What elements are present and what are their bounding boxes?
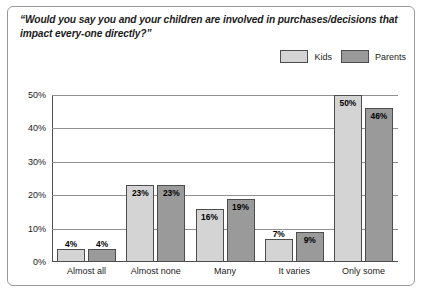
- bar-value-label: 4%: [96, 239, 108, 249]
- chart-title: “Would you say you and your children are…: [20, 13, 398, 41]
- bar-groups: 4%4%23%23%16%19%7%9%50%46%: [52, 95, 398, 262]
- bar-value-label: 23%: [163, 188, 180, 198]
- bar-parents[interactable]: 46%: [365, 108, 393, 262]
- bar-value-label: 19%: [232, 202, 249, 212]
- bar-parents[interactable]: 9%: [296, 232, 324, 262]
- chart-legend: Kids Parents: [280, 50, 406, 63]
- y-axis-tick-label: 50%: [28, 90, 46, 100]
- bar-group: 16%19%: [190, 95, 259, 262]
- legend-label-kids: Kids: [314, 52, 332, 62]
- x-axis-category-label: It varies: [260, 266, 329, 276]
- y-axis-tick-label: 10%: [28, 224, 46, 234]
- bar-group: 7%9%: [260, 95, 329, 262]
- x-axis-category-label: Only some: [329, 266, 398, 276]
- bar-value-label: 9%: [304, 235, 316, 245]
- x-axis-labels: Almost allAlmost noneManyIt variesOnly s…: [52, 266, 398, 276]
- x-axis-category-label: Almost none: [121, 266, 190, 276]
- bar-value-label: 50%: [340, 98, 357, 108]
- legend-swatch-kids: [280, 50, 308, 63]
- bar-kids[interactable]: 4%: [57, 249, 85, 262]
- chart-page: “Would you say you and your children are…: [0, 0, 422, 293]
- y-axis-tick-label: 0%: [33, 257, 46, 267]
- bar-kids[interactable]: 50%: [334, 95, 362, 262]
- bar-parents[interactable]: 19%: [227, 199, 255, 262]
- bar-value-label: 4%: [65, 239, 77, 249]
- bar-group: 23%23%: [121, 95, 190, 262]
- bar-kids[interactable]: 16%: [196, 209, 224, 262]
- bar-value-label: 23%: [132, 188, 149, 198]
- bar-value-label: 46%: [371, 111, 388, 121]
- bar-value-label: 16%: [201, 212, 218, 222]
- bar-parents[interactable]: 23%: [157, 185, 185, 262]
- bar-group: 50%46%: [329, 95, 398, 262]
- bar-parents[interactable]: 4%: [88, 249, 116, 262]
- legend-item-kids: Kids: [280, 50, 332, 63]
- y-axis-tick-label: 20%: [28, 190, 46, 200]
- plot-area: 0%10%20%30%40%50% 4%4%23%23%16%19%7%9%50…: [52, 95, 398, 262]
- legend-swatch-parents: [341, 50, 369, 63]
- bar-value-label: 7%: [273, 229, 285, 239]
- y-axis-tick-label: 30%: [28, 157, 46, 167]
- legend-item-parents: Parents: [341, 50, 406, 63]
- x-axis-category-label: Many: [190, 266, 259, 276]
- bar-kids[interactable]: 7%: [265, 239, 293, 262]
- y-axis-tick-label: 40%: [28, 123, 46, 133]
- x-axis-category-label: Almost all: [52, 266, 121, 276]
- bar-kids[interactable]: 23%: [126, 185, 154, 262]
- bar-group: 4%4%: [52, 95, 121, 262]
- legend-label-parents: Parents: [375, 52, 406, 62]
